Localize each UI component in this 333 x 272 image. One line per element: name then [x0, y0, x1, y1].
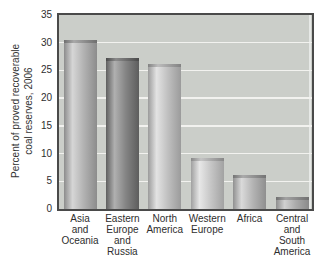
x-axis-label-line: America [269, 246, 315, 257]
bar-top-cap [148, 64, 181, 67]
x-axis-label-line: and [99, 235, 145, 246]
x-axis-label-eastern-europe-and-russia: EasternEuropeandRussia [99, 213, 145, 257]
plot-area [57, 13, 314, 211]
bar-eastern-europe-and-russia [106, 58, 139, 209]
x-axis-label-western-europe: WesternEurope [184, 213, 230, 235]
x-axis-label-line: Eastern [99, 213, 145, 224]
grid-line-25 [59, 70, 312, 71]
x-axis-label-line: Europe [184, 224, 230, 235]
x-axis-label-line: America [142, 224, 188, 235]
bar-top-cap [64, 40, 97, 43]
y-tick-label-20: 20 [24, 92, 52, 104]
y-tick-label-35: 35 [24, 9, 52, 21]
x-axis-label-line: Western [184, 213, 230, 224]
bar-top-cap [191, 158, 224, 161]
y-axis-label-line-1: Percent of proved recoverable [10, 44, 23, 178]
grid-line-20 [59, 97, 312, 98]
x-axis-label-line: Africa [227, 213, 273, 224]
x-axis-label-line: North [142, 213, 188, 224]
y-tick-label-15: 15 [24, 120, 52, 132]
grid-line-15 [59, 125, 312, 126]
x-axis-label-africa: Africa [227, 213, 273, 224]
y-tick-label-5: 5 [24, 175, 52, 187]
x-axis-label-asia-and-oceania: AsiaandOceania [57, 213, 103, 246]
bar-asia-and-oceania [64, 40, 97, 209]
x-axis-label-central-and-south-america: CentralandSouthAmerica [269, 213, 315, 257]
y-tick-label-0: 0 [24, 203, 52, 215]
y-tick-label-30: 30 [24, 37, 52, 49]
x-axis-label-line: Central [269, 213, 315, 224]
coal-reserves-bar-chart: Percent of proved recoverable coal reser… [0, 0, 333, 272]
bar-top-cap [106, 58, 139, 61]
grid-line-5 [59, 181, 312, 182]
bar-north-america [148, 64, 181, 209]
bar-top-cap [276, 197, 309, 200]
x-axis-label-line: Asia [57, 213, 103, 224]
bar-top-cap [233, 175, 266, 178]
y-tick-label-25: 25 [24, 64, 52, 76]
x-axis-label-line: and [269, 224, 315, 235]
x-axis-label-line: Russia [99, 246, 145, 257]
y-tick-label-10: 10 [24, 148, 52, 160]
x-axis-labels: AsiaandOceaniaEasternEuropeandRussiaNort… [59, 213, 312, 270]
x-axis-label-line: Oceania [57, 235, 103, 246]
x-axis-label-line: and [57, 224, 103, 235]
bar-central-and-south-america [276, 197, 309, 209]
grid-line-10 [59, 153, 312, 154]
grid-line-30 [59, 42, 312, 43]
x-axis-label-line: South [269, 235, 315, 246]
x-axis-label-north-america: NorthAmerica [142, 213, 188, 235]
x-axis-label-line: Europe [99, 224, 145, 235]
bar-africa [233, 175, 266, 209]
bar-western-europe [191, 158, 224, 209]
